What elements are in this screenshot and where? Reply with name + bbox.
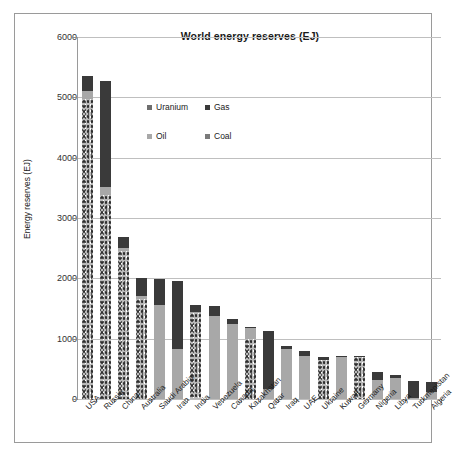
legend-row-1: Uranium Gas [147,102,267,112]
bar-segment-gas [172,281,183,349]
bar-segment-gas [190,305,201,312]
bar-column[interactable] [281,346,292,399]
bar-column[interactable] [118,237,129,399]
bar-segment-gas [372,372,383,380]
chart-legend: Uranium Gas Oil Coal [147,102,267,160]
bar-column[interactable] [136,278,147,399]
bar-segment-gas [209,306,220,316]
bar-segment-gas [154,279,165,305]
legend-swatch-gas-icon [205,105,210,110]
bar-segment-gas [118,237,129,247]
y-tick-label: 6000 [35,32,77,42]
bar-segment-coal [82,99,93,399]
gridline [78,278,441,279]
legend-label-coal: Coal [214,131,231,141]
chart-frame: World energy reserves (EJ) 0100020003000… [14,13,432,443]
gridline [78,37,441,38]
bar-column[interactable] [318,357,329,399]
bar-column[interactable] [209,306,220,400]
bar-segment-coal [136,299,147,399]
bar-segment-oil [299,356,310,399]
bar-segment-gas [100,81,111,187]
gridline [78,339,441,340]
legend-row-2: Oil Coal [147,131,267,141]
plot-area [78,37,441,399]
bar-column[interactable] [82,76,93,399]
bar-column[interactable] [154,279,165,399]
legend-item-uranium: Uranium [147,102,205,112]
y-tick-label: 5000 [35,92,77,102]
y-tick-label: 4000 [35,153,77,163]
bar-column[interactable] [100,81,111,399]
legend-item-oil: Oil [147,131,205,141]
y-tick-mark [72,218,77,219]
bar-segment-oil [281,349,292,399]
y-tick-label: 1000 [35,334,77,344]
bar-segment-oil [245,328,256,339]
y-tick-mark [72,158,77,159]
y-tick-mark [72,278,77,279]
legend-label-oil: Oil [156,131,166,141]
gridline [78,218,441,219]
legend-item-coal: Coal [205,131,263,141]
bar-segment-coal [118,251,129,399]
y-tick-mark [72,37,77,38]
legend-label-gas: Gas [214,102,230,112]
bar-segment-coal [190,313,201,399]
bar-column[interactable] [299,351,310,399]
y-tick-label: 2000 [35,273,77,283]
bar-segment-coal [318,360,329,399]
y-tick-mark [72,399,77,400]
legend-label-uranium: Uranium [156,102,188,112]
y-tick-mark [72,339,77,340]
bar-segment-gas [136,278,147,295]
bar-column[interactable] [190,305,201,399]
legend-item-gas: Gas [205,102,263,112]
y-axis-tick-labels: 0100020003000400050006000 [25,37,77,400]
bar-segment-oil [100,187,111,195]
bar-segment-oil [209,316,220,399]
bar-segment-gas [82,76,93,91]
bar-segment-coal [100,195,111,399]
y-axis-title: Energy reserves (EJ) [22,119,32,279]
legend-swatch-uranium-icon [147,105,152,110]
bar-segment-oil [82,91,93,98]
y-tick-label: 3000 [35,213,77,223]
legend-swatch-oil-icon [147,134,152,139]
legend-swatch-coal-icon [205,134,210,139]
gridline [78,97,441,98]
y-tick-label: 0 [35,394,77,404]
y-tick-mark [72,97,77,98]
